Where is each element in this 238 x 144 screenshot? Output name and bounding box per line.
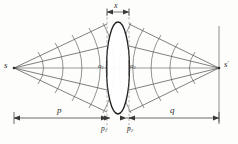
label-image-s-prime: s′ xyxy=(224,60,229,69)
label-p1: p1 xyxy=(101,125,107,133)
label-p2: p2 xyxy=(127,125,133,133)
label-vertex-o2: o2 xyxy=(130,63,136,70)
image-point xyxy=(218,67,221,70)
dimension-x xyxy=(107,9,129,16)
label-vertex-o1: o1 xyxy=(98,63,104,70)
figure-canvas xyxy=(0,0,238,144)
label-object-distance-p: p xyxy=(57,106,62,115)
source-point xyxy=(13,67,16,70)
label-image-distance-q: q xyxy=(170,106,175,115)
label-source-s: s xyxy=(4,61,8,70)
label-lens-width-x: x xyxy=(114,2,118,10)
lens xyxy=(107,22,130,114)
label-image-prime: ′ xyxy=(228,59,229,66)
optics-figure: s s′ o1 o2 x p q p1 p2 xyxy=(0,0,238,144)
